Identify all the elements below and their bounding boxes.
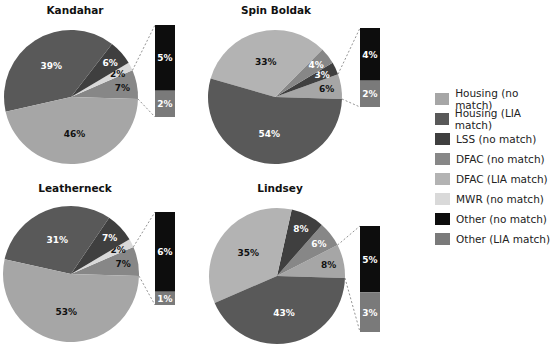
legend: Housing (no match)Housing (LIA match)LSS… (435, 89, 553, 249)
legend-swatch (435, 133, 450, 145)
legend-item: Housing (no match) (435, 89, 553, 109)
slice-label: 8% (293, 224, 308, 234)
slice-label: 53% (56, 307, 78, 317)
legend-label: Other (no match) (456, 213, 547, 225)
legend-swatch (435, 233, 450, 245)
legend-swatch (435, 153, 450, 165)
legend-label: MWR (no match) (456, 193, 544, 205)
bar-label: 5% (157, 53, 172, 63)
legend-swatch (435, 113, 449, 125)
slice-label: 35% (237, 248, 259, 258)
legend-label: DFAC (LIA match) (456, 173, 548, 185)
legend-item: DFAC (LIA match) (435, 169, 553, 189)
legend-label: Other (LIA match) (456, 233, 550, 245)
slice-label: 6% (103, 58, 118, 68)
legend-label: LSS (no match) (456, 133, 536, 145)
connector-line (133, 212, 155, 247)
legend-item: Other (LIA match) (435, 229, 553, 249)
slice-label: 31% (46, 235, 68, 245)
slice-label: 8% (321, 260, 336, 270)
slice-label: 54% (259, 129, 281, 139)
legend-label: DFAC (no match) (456, 153, 545, 165)
slice-label: 39% (40, 61, 62, 71)
connector-line (338, 28, 360, 74)
legend-swatch (435, 93, 449, 105)
legend-swatch (435, 173, 450, 185)
legend-swatch (435, 193, 450, 205)
connector-line (342, 99, 360, 107)
legend-item: DFAC (no match) (435, 149, 553, 169)
legend-swatch (435, 213, 450, 225)
bar-label: 2% (157, 99, 172, 109)
slice-label: 33% (255, 57, 277, 67)
slice-label: 7% (115, 259, 130, 269)
bar-label: 1% (157, 294, 172, 304)
legend-item: Housing (LIA match) (435, 109, 553, 129)
legend-item: MWR (no match) (435, 189, 553, 209)
slice-label: 6% (319, 84, 334, 94)
bar-label: 2% (362, 89, 377, 99)
legend-item: Other (no match) (435, 209, 553, 229)
bar-label: 6% (157, 247, 172, 257)
connector-line (338, 226, 360, 245)
pie-leatherneck: 7%2%7%31%53%6%1% (3, 206, 175, 342)
bar-label: 3% (362, 308, 377, 318)
connector-line (139, 276, 155, 305)
slice-label: 43% (273, 308, 295, 318)
slice-label: 7% (102, 233, 117, 243)
connector-line (138, 99, 155, 117)
connector-line (345, 278, 360, 332)
legend-item: LSS (no match) (435, 129, 553, 149)
pie-spin-boldak: 6%3%4%33%54%4%2% (208, 28, 380, 164)
pie-kandahar: 7%2%6%39%46%5%2% (4, 25, 175, 164)
bar-label: 5% (362, 255, 377, 265)
bar-label: 4% (362, 50, 377, 60)
slice-label: 7% (115, 83, 130, 93)
slice-label: 46% (64, 129, 86, 139)
connector-line (132, 25, 155, 70)
slice-label: 4% (309, 60, 324, 70)
slice-label: 6% (311, 239, 326, 249)
pie-lindsey: 8%6%8%35%43%5%3% (209, 208, 380, 344)
legend-label: Housing (LIA match) (455, 107, 553, 131)
